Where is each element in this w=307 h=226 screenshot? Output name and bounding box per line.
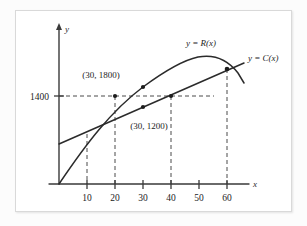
- axis-lines: [49, 27, 249, 184]
- point-label-30-1200: (30, 1200): [130, 121, 168, 131]
- marker-c-30-1200: [141, 105, 145, 109]
- x-axis-label: x: [252, 179, 257, 189]
- marker-r-20-1400: [113, 94, 117, 98]
- revenue-curve-label: y = R(x): [185, 38, 216, 48]
- y-axis-arrow-icon: [56, 23, 62, 30]
- figure-frame: x y 1400 10 20 30 40 50 60 y = R(x) y = …: [15, 10, 292, 212]
- x-tick-labels: 10 20 30 40 50 60: [82, 193, 232, 203]
- marker-c-40-1400: [169, 94, 173, 98]
- point-label-30-1800: (30, 1800): [82, 70, 120, 80]
- marker-r-30-1800: [141, 85, 145, 89]
- y-tick-label-1400: 1400: [30, 92, 49, 102]
- marker-intersection-60: [225, 67, 230, 72]
- cost-curve-label: y = C(x): [247, 53, 279, 63]
- x-tick-label-60: 60: [222, 193, 232, 203]
- y-axis-label: y: [64, 24, 69, 34]
- revenue-cost-chart: x y 1400 10 20 30 40 50 60 y = R(x) y = …: [16, 11, 291, 211]
- x-tick-label-10: 10: [82, 193, 92, 203]
- x-tick-label-20: 20: [110, 193, 120, 203]
- x-tick-label-50: 50: [194, 193, 204, 203]
- x-tick-label-40: 40: [166, 193, 176, 203]
- x-tick-label-30: 30: [138, 193, 148, 203]
- data-point-markers: [113, 67, 229, 109]
